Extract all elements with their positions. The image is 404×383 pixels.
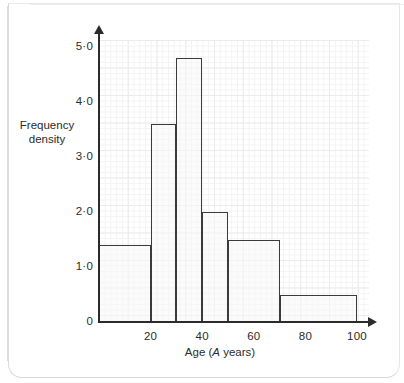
x-axis-tick-label: 60	[234, 330, 274, 342]
y-axis-title: Frequency density	[8, 118, 86, 146]
x-axis-title: Age (A years)	[130, 346, 310, 358]
y-axis-title-line-1: Frequency	[8, 118, 86, 132]
x-axis-title-prefix: Age (	[185, 346, 213, 358]
x-axis-tick-label: 100	[337, 330, 377, 342]
y-axis-title-line-2: density	[8, 132, 86, 146]
x-axis-tick-label: 80	[285, 330, 325, 342]
x-axis-title-variable: A	[212, 346, 220, 358]
x-axis-tick-label: 20	[131, 330, 171, 342]
x-axis-tick-label: 40	[182, 330, 222, 342]
histogram-figure: 5·04·03·02·01·00 20406080100 Frequency d…	[0, 0, 404, 383]
x-axis-title-suffix: years)	[220, 346, 255, 358]
x-axis-tick-labels: 20406080100	[0, 0, 404, 383]
